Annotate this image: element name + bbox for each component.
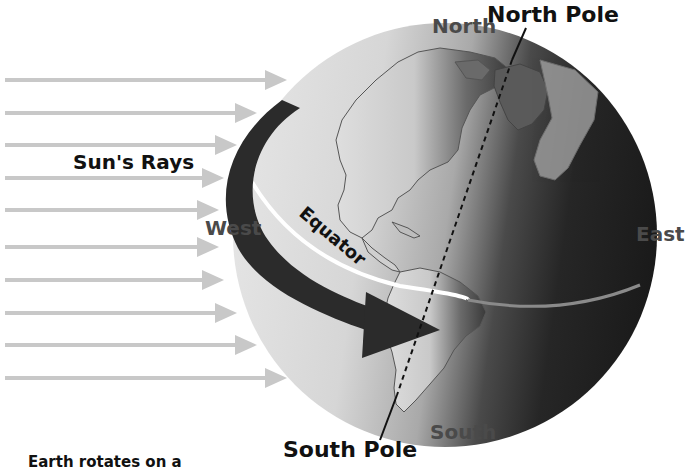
north-label: North [432,14,496,38]
east-label: East [636,222,685,246]
ray-arrow-icon [5,270,224,290]
south-label: South [430,420,496,444]
caption-text: Earth rotates on a [28,453,182,471]
ray-arrow-icon [5,303,237,323]
ray-arrow-icon [5,70,287,90]
ray-arrow-icon [5,200,219,220]
ray-arrow-icon [5,237,219,257]
west-label: West [205,216,261,240]
ray-arrow-icon [5,368,287,388]
suns-rays-label: Sun's Rays [73,150,194,174]
south-pole-label: South Pole [283,437,417,462]
north-pole-label: North Pole [487,2,619,27]
ray-arrow-icon [5,335,257,355]
earth-globe [233,23,657,447]
ray-arrow-icon [5,103,257,123]
